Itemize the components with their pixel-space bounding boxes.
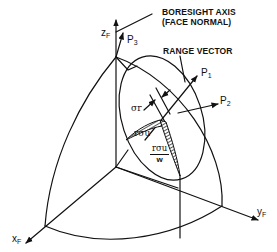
face-normal-label: (FACE NORMAL) [162,18,231,27]
range-leader [180,56,185,82]
range-vector [145,76,197,140]
p1-label: P1 [201,68,212,79]
sigma-r-arrow2 [162,90,170,97]
r-sigma-u-label: rσu [134,129,150,138]
p3-label: P3 [127,35,138,46]
sigma-r-arrow [144,100,155,110]
face-edge-bottom [116,167,178,188]
boresight-axis-label: BORESIGHT AXIS [162,8,236,17]
boresight-leader [116,14,152,32]
boresight-connector [116,57,137,70]
face-edge-left [116,150,128,167]
fraction-denominator: w [150,155,169,164]
y-axis [116,167,258,220]
sigma-r-ext1 [150,95,165,122]
left-arc [45,57,116,226]
range-vector-label: RANGE VECTOR [163,47,233,56]
fraction-numerator: rσu [150,144,169,155]
face-coordinate-diagram [0,0,277,252]
z-axis-label: zF [101,28,110,39]
bottom-arc [45,206,222,239]
x-axis-label: xF [12,234,21,245]
r-sigma-u-over-w-label: rσu w [150,144,169,164]
p3-vector [116,33,123,57]
x-axis [26,167,116,243]
sigma-r-label: σr [131,104,141,113]
y-axis-label: yF [257,207,266,218]
p2-label: P2 [220,96,231,107]
